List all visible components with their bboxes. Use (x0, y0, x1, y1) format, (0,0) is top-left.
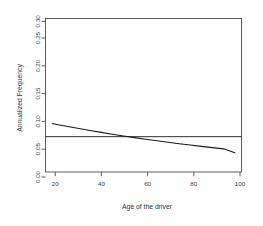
x-tick-label: 60 (144, 180, 151, 187)
x-tick-label: 80 (190, 180, 197, 187)
y-tick-label: 0.25 (34, 31, 41, 44)
y-tick-label: 0.20 (34, 59, 41, 72)
chart-plot-svg: 0.00 0.05 0.10 0.15 0.20 0.25 0.30 Annua… (0, 0, 263, 226)
y-tick-label: 0.10 (34, 115, 41, 128)
chart-figure: 0.00 0.05 0.10 0.15 0.20 0.25 0.30 Annua… (0, 0, 263, 226)
y-tick-label: 0.00 (34, 170, 41, 183)
y-tick-label: 0.05 (34, 143, 41, 156)
y-axis-title: Annualized Frequency (16, 64, 24, 132)
x-tick-label: 20 (52, 180, 59, 187)
y-tick-label: 0.15 (34, 87, 41, 100)
plot-frame (46, 19, 242, 173)
x-axis-title: Age of the driver (122, 203, 173, 211)
x-tick-label: 100 (235, 180, 246, 187)
x-tick-label: 40 (98, 180, 105, 187)
y-tick-label: 0.30 (34, 15, 41, 28)
